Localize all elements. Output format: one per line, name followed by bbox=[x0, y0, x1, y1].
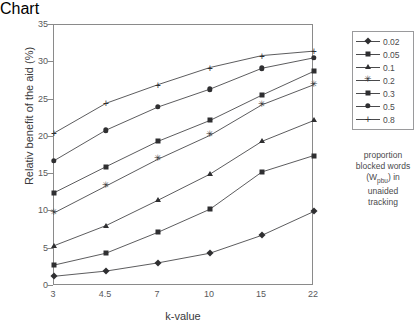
marker-circle-icon bbox=[365, 103, 370, 108]
x-axis-title: k-value bbox=[53, 310, 313, 322]
x-axis-tick-label: 22 bbox=[298, 289, 328, 299]
legend-key bbox=[355, 36, 381, 47]
marker-star-icon: ✳ bbox=[50, 210, 58, 215]
y-axis-tick-label: 5 bbox=[26, 243, 48, 253]
marker-square-icon bbox=[260, 93, 265, 98]
legend-note-line-1: proportion bbox=[346, 150, 420, 161]
series-line-0.05 bbox=[54, 156, 314, 266]
y-axis-title: Relativ benefit of the aid (%) bbox=[23, 1, 35, 231]
marker-square-icon bbox=[312, 153, 317, 158]
plot-area: ✳✳✳✳✳✳++++++ bbox=[53, 24, 313, 285]
marker-square-icon bbox=[104, 164, 109, 169]
legend-item-0.2[interactable]: ✳0.2 bbox=[355, 74, 411, 87]
series-lines bbox=[54, 25, 314, 286]
x-axis-tick-label: 7 bbox=[142, 289, 172, 299]
marker-square-icon bbox=[52, 263, 57, 268]
x-axis-tick-labels: 34.57101522 bbox=[53, 289, 313, 303]
marker-square-icon bbox=[260, 169, 265, 174]
marker-triangle-icon bbox=[103, 223, 109, 228]
series-line-0.3 bbox=[54, 71, 314, 193]
marker-plus-icon: + bbox=[103, 101, 109, 106]
x-axis-tick-label: 4.5 bbox=[90, 289, 120, 299]
marker-plus-icon: + bbox=[155, 82, 161, 87]
marker-square-icon bbox=[104, 251, 109, 256]
marker-triangle-icon bbox=[259, 138, 265, 143]
legend-note-prefix: (W bbox=[366, 172, 377, 182]
legend-note-line-3: (Wpbu) in bbox=[346, 172, 420, 186]
marker-star-icon: ✳ bbox=[154, 157, 162, 162]
marker-square-icon bbox=[156, 139, 161, 144]
x-axis-tick-label: 3 bbox=[38, 289, 68, 299]
marker-plus-icon: + bbox=[207, 65, 213, 70]
marker-diamond-icon bbox=[364, 37, 371, 44]
marker-star-icon: ✳ bbox=[206, 133, 214, 138]
x-axis-tick-label: 15 bbox=[246, 289, 276, 299]
legend-key: + bbox=[355, 114, 381, 125]
legend-note-subscript: pbu bbox=[377, 177, 388, 184]
series-line-0.1 bbox=[54, 120, 314, 245]
legend-key bbox=[355, 62, 381, 73]
marker-triangle-icon bbox=[365, 64, 371, 69]
legend: 0.020.050.1✳0.20.30.5+0.8 bbox=[352, 31, 414, 130]
legend-note-line-2: blocked words bbox=[346, 161, 420, 172]
legend-note-line-5: tracking bbox=[346, 197, 420, 208]
marker-square-icon bbox=[156, 230, 161, 235]
marker-square-icon bbox=[52, 190, 57, 195]
marker-plus-icon: + bbox=[259, 53, 265, 58]
marker-triangle-icon bbox=[311, 117, 317, 122]
marker-plus-icon: + bbox=[365, 117, 371, 122]
marker-plus-icon: + bbox=[51, 131, 57, 136]
legend-item-label: 0.5 bbox=[381, 102, 395, 112]
legend-item-0.3[interactable]: 0.3 bbox=[355, 87, 411, 100]
legend-key: ✳ bbox=[355, 75, 381, 86]
series-line-0.5 bbox=[54, 58, 314, 161]
legend-key bbox=[355, 101, 381, 112]
marker-triangle-icon bbox=[51, 243, 57, 248]
legend-item-0.02[interactable]: 0.02 bbox=[355, 35, 411, 48]
marker-star-icon: ✳ bbox=[102, 183, 110, 188]
legend-item-0.1[interactable]: 0.1 bbox=[355, 61, 411, 74]
legend-note: proportion blocked words (Wpbu) in unaid… bbox=[346, 150, 420, 208]
marker-triangle-icon bbox=[155, 197, 161, 202]
legend-key bbox=[355, 88, 381, 99]
marker-star-icon: ✳ bbox=[310, 82, 318, 87]
legend-item-0.5[interactable]: 0.5 bbox=[355, 100, 411, 113]
legend-item-label: 0.8 bbox=[381, 115, 395, 125]
marker-square-icon bbox=[208, 207, 213, 212]
marker-plus-icon: + bbox=[311, 49, 317, 54]
marker-square-icon bbox=[366, 52, 371, 57]
legend-note-suffix: ) in bbox=[388, 172, 400, 182]
legend-item-0.05[interactable]: 0.05 bbox=[355, 48, 411, 61]
marker-triangle-icon bbox=[207, 171, 213, 176]
marker-square-icon bbox=[312, 69, 317, 74]
x-axis-tick-label: 10 bbox=[194, 289, 224, 299]
series-line-0.8 bbox=[54, 51, 314, 133]
marker-star-icon: ✳ bbox=[258, 102, 266, 107]
legend-item-label: 0.1 bbox=[381, 63, 395, 73]
chart-figure: 05101520253035 Relativ benefit of the ai… bbox=[0, 0, 420, 334]
y-axis-tick-mark bbox=[47, 285, 53, 286]
legend-item-label: 0.02 bbox=[381, 37, 400, 47]
legend-item-label: 0.2 bbox=[381, 76, 395, 86]
series-line-0.2 bbox=[54, 85, 314, 213]
legend-key bbox=[355, 49, 381, 60]
marker-square-icon bbox=[208, 118, 213, 123]
marker-star-icon: ✳ bbox=[364, 77, 372, 82]
marker-square-icon bbox=[366, 91, 371, 96]
legend-note-line-4: unaided bbox=[346, 186, 420, 197]
legend-item-label: 0.05 bbox=[381, 50, 400, 60]
legend-item-0.8[interactable]: +0.8 bbox=[355, 113, 411, 126]
legend-item-label: 0.3 bbox=[381, 89, 395, 99]
